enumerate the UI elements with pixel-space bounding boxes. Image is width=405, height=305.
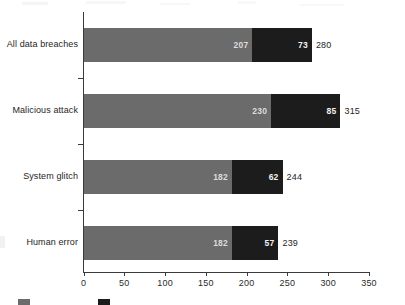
scan-artifact (86, 1, 126, 4)
x-axis-tick-label: 100 (157, 278, 173, 288)
bar-segment-series-1[interactable]: 207 (84, 28, 253, 62)
bar-segment-series-1[interactable]: 182 (84, 160, 232, 194)
bar-total-label: 244 (287, 172, 303, 182)
scan-artifact (300, 4, 344, 6)
legend-swatch-series-1 (18, 299, 30, 305)
x-axis-tick (84, 272, 85, 276)
x-axis-tick-label: 250 (280, 278, 296, 288)
x-axis-tick (328, 272, 329, 276)
x-axis-tick (369, 272, 370, 276)
x-axis-tick-label: 0 (81, 278, 86, 288)
bar-segment-series-2[interactable]: 62 (232, 160, 283, 194)
bar-value-label: 85 (327, 106, 337, 116)
bar-total-label: 239 (282, 238, 298, 248)
bar-value-label: 57 (265, 238, 275, 248)
stacked-bar-chart: 050100150200250300350 All data breachesM… (0, 0, 405, 305)
x-axis-tick (206, 272, 207, 276)
x-axis-tick-label: 350 (361, 278, 377, 288)
bar-segment-series-2[interactable]: 73 (252, 28, 312, 62)
scan-artifact (22, 2, 48, 5)
y-axis-tick (78, 210, 83, 211)
x-axis-tick-label: 50 (119, 278, 129, 288)
chart-legend (0, 299, 405, 305)
x-axis-tick-label: 300 (320, 278, 336, 288)
bar-value-label: 182 (213, 172, 228, 182)
bar-row[interactable]: 23085315 (0, 94, 405, 128)
x-axis-tick (287, 272, 288, 276)
x-axis-tick (247, 272, 248, 276)
bar-value-label: 207 (234, 40, 249, 50)
x-axis-tick-label: 150 (198, 278, 214, 288)
bar-segment-series-2[interactable]: 85 (271, 94, 340, 128)
bar-value-label: 182 (213, 238, 228, 248)
scan-artifact (160, 3, 190, 5)
bar-row[interactable]: 18262244 (0, 160, 405, 194)
x-axis-tick-label: 200 (239, 278, 255, 288)
bar-row[interactable]: 20773280 (0, 28, 405, 62)
y-axis-tick (78, 78, 83, 79)
bar-value-label: 62 (269, 172, 279, 182)
bar-value-label: 73 (298, 40, 308, 50)
bar-value-label: 230 (252, 106, 267, 116)
bar-row[interactable]: 18257239 (0, 226, 405, 260)
bar-segment-series-2[interactable]: 57 (232, 226, 278, 260)
x-axis-line (83, 272, 369, 273)
x-axis-tick (165, 272, 166, 276)
bar-total-label: 280 (316, 40, 332, 50)
bar-segment-series-1[interactable]: 230 (84, 94, 272, 128)
y-axis-tick (78, 144, 83, 145)
scan-artifact (238, 1, 256, 4)
bar-total-label: 315 (344, 106, 360, 116)
bar-segment-series-1[interactable]: 182 (84, 226, 232, 260)
legend-swatch-series-2 (98, 299, 110, 305)
x-axis-tick (124, 272, 125, 276)
